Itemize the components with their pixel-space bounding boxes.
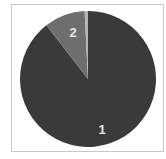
slice-label-2: 2 — [69, 25, 76, 40]
slice-label-1: 1 — [98, 122, 105, 137]
pie-slices — [20, 11, 156, 147]
pie-chart: 1 2 — [0, 0, 166, 159]
